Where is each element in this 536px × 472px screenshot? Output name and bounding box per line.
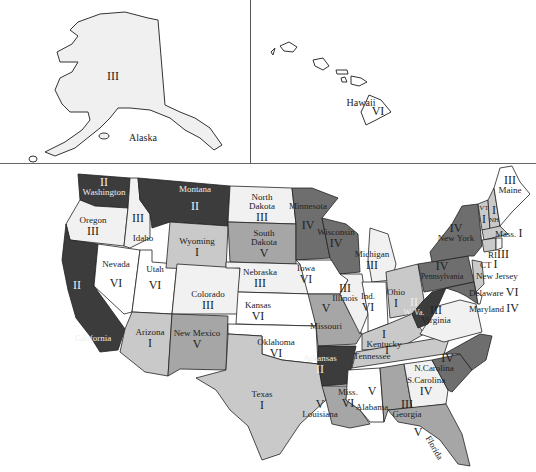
alaska-label: Alaska bbox=[129, 133, 157, 142]
state-iowa[interactable]: IowaVI bbox=[297, 264, 315, 285]
state-california-class: II bbox=[73, 279, 81, 291]
state-california[interactable]: California bbox=[75, 334, 112, 343]
state-kansas[interactable]: KansasVI bbox=[245, 301, 271, 322]
state-washington[interactable]: IIWashington bbox=[83, 176, 126, 197]
state-colorado[interactable]: ColoradoIII bbox=[191, 290, 225, 311]
state-new-mexico[interactable]: New MexicoV bbox=[174, 329, 221, 350]
state-tennessee-class: I bbox=[385, 344, 389, 356]
state-pennsylvania[interactable]: IVPennsylvania bbox=[421, 260, 464, 281]
state-michigan[interactable]: MichiganIII bbox=[355, 250, 390, 271]
state-south-carolina[interactable]: S.CarolinaIV bbox=[407, 376, 445, 397]
state-wisconsin[interactable]: WisconsinIV bbox=[317, 228, 355, 249]
state-ohio[interactable]: OhioI bbox=[387, 288, 405, 309]
state-texas[interactable]: TexasI bbox=[252, 390, 273, 411]
state-louisiana[interactable]: VLouisiana bbox=[302, 398, 338, 419]
state-georgia[interactable]: IIIGeorgia bbox=[393, 398, 422, 419]
hawaii-shape bbox=[251, 0, 536, 163]
state-south-dakota[interactable]: South DakotaV bbox=[244, 229, 284, 259]
state-alabama[interactable]: VAlabama bbox=[356, 385, 388, 412]
state-idaho[interactable]: Idaho bbox=[133, 234, 154, 243]
state-new-jersey[interactable]: New Jersey bbox=[476, 272, 518, 281]
state-idaho-class: III bbox=[132, 212, 144, 224]
state-new-hampshire[interactable]: INH bbox=[489, 204, 499, 225]
state-kentucky[interactable]: IKentucky bbox=[367, 328, 402, 349]
state-wyoming[interactable]: WyomingI bbox=[179, 237, 214, 258]
state-oklahoma[interactable]: OklahomaVI bbox=[257, 338, 295, 359]
state-west-virginia[interactable]: IIW. Va. bbox=[403, 296, 424, 317]
state-connecticut[interactable]: CT I bbox=[480, 258, 498, 270]
state-oregon[interactable]: OregonIII bbox=[80, 216, 107, 237]
state-massachusetts[interactable]: Mass. I bbox=[495, 227, 523, 239]
state-florida-class: V bbox=[414, 426, 423, 438]
state-arkansas[interactable]: ArkansasII bbox=[303, 354, 337, 375]
state-north-dakota[interactable]: North DakotaIII bbox=[242, 193, 282, 223]
state-north-carolina[interactable]: IVN.Carolina bbox=[414, 352, 454, 373]
state-montana[interactable]: MontanaII bbox=[179, 185, 211, 212]
state-vermont[interactable]: VTI bbox=[479, 204, 488, 225]
hawaii-class: VI bbox=[372, 105, 385, 117]
state-utah[interactable]: UtahVI bbox=[146, 265, 164, 291]
alaska-inset: III Alaska bbox=[0, 0, 250, 163]
state-delaware[interactable]: Delaware VI bbox=[469, 286, 518, 298]
state-indiana[interactable]: Ind.VI bbox=[361, 292, 375, 313]
state-nebraska[interactable]: NebraskaIII bbox=[243, 268, 277, 289]
alaska-class: III bbox=[107, 70, 119, 82]
state-illinois[interactable]: IIIIllinois bbox=[332, 282, 358, 303]
hawaii-inset: Hawaii VI bbox=[251, 0, 536, 163]
us-map: IIWashington OregonIII II California III… bbox=[0, 164, 536, 472]
state-nevada[interactable]: NevadaVI bbox=[102, 260, 129, 289]
state-arizona[interactable]: ArizonaI bbox=[136, 328, 165, 349]
state-virginia[interactable]: IIIVirginia bbox=[421, 304, 450, 325]
state-missouri[interactable]: VMissouri bbox=[310, 302, 342, 331]
state-maryland[interactable]: Maryland IV bbox=[469, 302, 519, 314]
state-maine[interactable]: IIIMaine bbox=[499, 174, 522, 195]
alaska-shape bbox=[0, 0, 250, 163]
state-new-york[interactable]: IVNew York bbox=[438, 222, 475, 243]
